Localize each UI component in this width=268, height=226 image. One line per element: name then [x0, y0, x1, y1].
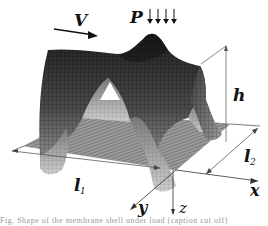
load-label: P	[129, 7, 144, 27]
length2-subscript: 2	[249, 157, 256, 167]
y-axis-arrow-icon	[130, 203, 137, 210]
membrane-surface-diagram: V P h l 1 l 2	[0, 0, 268, 226]
arrow-head-icon	[206, 168, 212, 174]
y-axis-label: y	[137, 198, 149, 217]
z-axis-arrow-icon	[171, 209, 175, 215]
load-indicator: P	[129, 7, 177, 27]
velocity-label: V	[74, 10, 89, 30]
velocity-indicator: V	[54, 10, 98, 39]
coordinate-axes	[132, 170, 258, 214]
arrow-head-icon	[88, 31, 98, 39]
z-axis-label: z	[178, 199, 187, 217]
length1-subscript: 1	[80, 186, 86, 196]
arrow-head-icon	[252, 128, 258, 134]
load-arrows-icon	[150, 9, 174, 21]
height-label: h	[233, 85, 245, 105]
x-axis-label: x	[249, 181, 260, 200]
figure-caption: Fig. Shape of the membrane shell under l…	[0, 216, 268, 226]
